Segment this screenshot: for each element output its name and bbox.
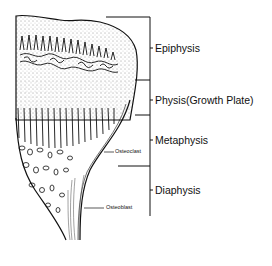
bone-illustration	[0, 0, 272, 266]
bone-anatomy-diagram: Epiphysis Physis(Growth Plate) Metaphysi…	[0, 0, 272, 266]
callout-osteoblast: Osteoblast	[106, 205, 132, 211]
label-epiphysis: Epiphysis	[155, 43, 200, 54]
trabecular-bone	[19, 146, 73, 213]
label-diaphysis: Diaphysis	[155, 185, 201, 196]
physis-zone	[17, 80, 132, 110]
label-metaphysis: Metaphysis	[155, 135, 208, 146]
callout-osteoclast: Osteoclast	[115, 149, 141, 155]
label-physis: Physis(Growth Plate)	[155, 95, 254, 106]
